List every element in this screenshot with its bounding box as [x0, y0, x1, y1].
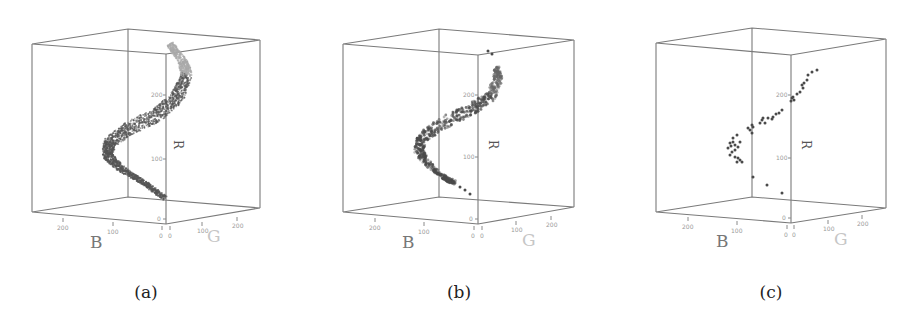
caption-b: (b) — [429, 282, 489, 302]
svg-text:100: 100 — [731, 227, 743, 234]
g-axis-label: G — [522, 230, 536, 250]
svg-text:200: 200 — [682, 223, 694, 230]
panel-b: 200 100 0 200 100 0 0 100 200 B G R — [0, 0, 920, 316]
svg-text:200: 200 — [776, 91, 788, 98]
b-axis-label: B — [716, 231, 729, 251]
svg-text:100: 100 — [511, 226, 523, 233]
bounding-box — [656, 28, 886, 223]
g-axis-ticks: 0 100 200 — [792, 215, 869, 238]
g-axis-label: G — [834, 229, 848, 249]
svg-text:0: 0 — [792, 231, 796, 238]
g-axis-ticks: 0 100 200 — [480, 216, 558, 239]
point-cloud — [727, 69, 819, 195]
b-axis-ticks: 200 100 0 — [369, 218, 475, 239]
point-cloud — [413, 50, 503, 196]
scatter3d-c: 200 100 0 200 100 0 0 100 200 — [656, 28, 886, 251]
svg-text:200: 200 — [369, 224, 381, 231]
caption-c: (c) — [741, 282, 801, 302]
svg-text:100: 100 — [776, 154, 788, 161]
svg-text:0: 0 — [471, 232, 475, 239]
scatter3d-b: 200 100 0 200 100 0 0 100 200 B G R — [0, 0, 920, 316]
svg-text:200: 200 — [546, 221, 558, 228]
svg-text:0: 0 — [784, 231, 788, 238]
svg-text:0: 0 — [782, 214, 786, 221]
svg-text:100: 100 — [418, 228, 430, 235]
svg-text:200: 200 — [463, 91, 475, 98]
svg-text:100: 100 — [823, 225, 835, 232]
r-axis-label: R — [486, 140, 500, 150]
svg-text:100: 100 — [463, 153, 475, 160]
b-axis-label: B — [402, 232, 415, 252]
svg-text:200: 200 — [857, 220, 869, 227]
svg-text:0: 0 — [480, 232, 484, 239]
r-axis-label: R — [799, 140, 813, 150]
svg-text:0: 0 — [469, 215, 473, 222]
r-axis-ticks: 200 100 0 — [776, 91, 791, 221]
bounding-box — [343, 29, 574, 224]
b-axis-ticks: 200 100 0 — [682, 217, 788, 238]
